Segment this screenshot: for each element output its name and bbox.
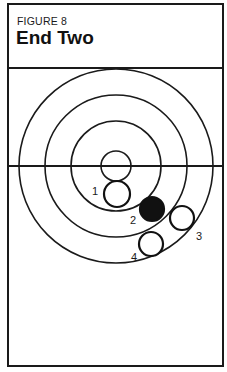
shot-3-circle <box>170 206 194 230</box>
shot-2-label: 2 <box>130 214 136 226</box>
shot-4-label: 4 <box>131 251 137 263</box>
shot-2-filled-circle <box>140 197 164 221</box>
shot-1-label: 1 <box>92 185 98 197</box>
shot-1-circle <box>104 181 130 207</box>
shot-group: 1234 <box>92 181 202 263</box>
shot-3-label: 3 <box>196 230 202 242</box>
archery-target-diagram: 1234 <box>0 0 227 372</box>
shot-4-circle <box>139 232 163 256</box>
